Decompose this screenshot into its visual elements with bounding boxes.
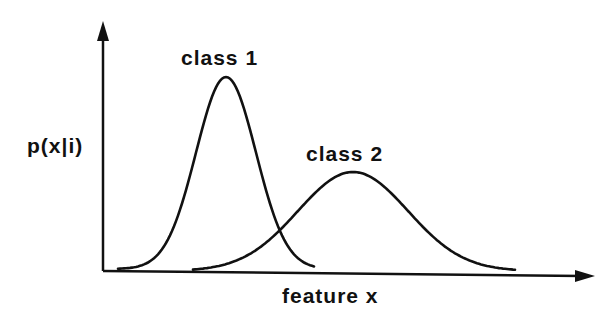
x-axis-label: feature x: [282, 284, 379, 308]
class-1-label: class 1: [181, 46, 258, 70]
class-2-label: class 2: [306, 142, 383, 166]
class-1-density-curve: [118, 77, 314, 269]
x-axis-arrow-icon: [575, 270, 595, 282]
class-2-density-curve: [193, 172, 515, 270]
y-axis-arrow-icon: [97, 21, 109, 41]
y-axis-label: p(x|i): [27, 134, 83, 158]
x-axis: [103, 271, 582, 276]
